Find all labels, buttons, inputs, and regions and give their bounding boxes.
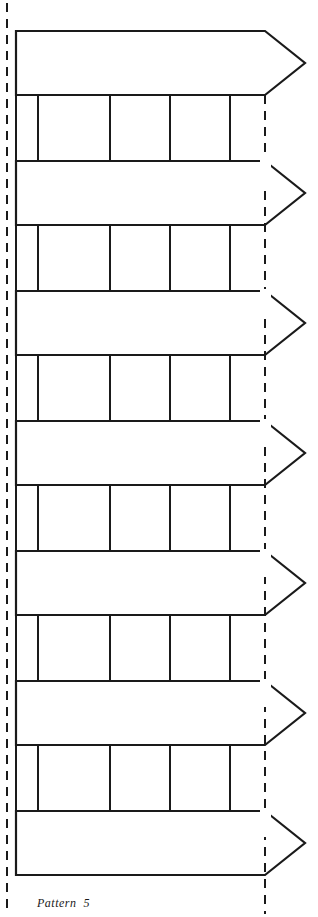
connector-band [16,745,230,811]
pattern-drawing [0,0,318,917]
pattern-caption: Pattern 5 [37,896,90,911]
connector-band [16,355,230,421]
connector-band [16,95,230,161]
pattern-sheet: Pattern 5 [0,0,318,917]
connector-band [16,485,230,551]
arrow-shapes-group [16,31,305,875]
arrow-shape [16,31,305,95]
connector-band [16,615,230,681]
connector-band [16,225,230,291]
